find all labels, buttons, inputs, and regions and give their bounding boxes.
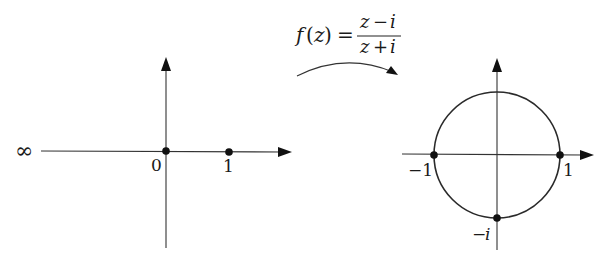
domain-real-axis-arrow-icon [278,147,292,157]
mapping-arrow [297,63,398,76]
image-plane: −1 1 − i [402,58,594,250]
mapping-arrowhead-icon [386,66,398,75]
image-label-1: 1 [563,160,574,180]
image-label-minus-i-i: i [485,224,490,244]
numerator-z: z [359,11,370,32]
numerator-i: i [390,11,396,32]
domain-point-0 [162,147,170,155]
mobius-map-diagram: f ( z ) = z − i z + i ∞ 0 1 [0,0,604,265]
denominator-z: z [359,36,370,57]
image-point-minus-i [493,214,501,222]
domain-plane: ∞ 0 1 [15,57,292,248]
image-label-minus-1: −1 [408,160,433,180]
formula-paren-close: ) [324,23,332,47]
denominator-plus: + [373,36,388,57]
denominator-i: i [390,36,396,57]
mapping-arrow-curve [297,63,393,76]
formula-paren-open: ( [306,23,314,47]
domain-imag-axis-arrow-icon [161,57,171,71]
image-point-1 [556,151,564,159]
image-point-minus-1 [430,151,438,159]
formula-equals: = [337,23,354,47]
mapping-formula: f ( z ) = z − i z + i [294,11,401,57]
domain-label-1: 1 [223,156,234,176]
image-real-axis-arrow-icon [580,150,594,160]
domain-label-0: 0 [151,155,162,175]
numerator-minus: − [373,11,388,32]
infinity-label: ∞ [15,138,33,163]
image-imag-axis-arrow-icon [492,58,502,72]
domain-point-1 [225,148,233,156]
domain-real-axis [41,151,283,152]
